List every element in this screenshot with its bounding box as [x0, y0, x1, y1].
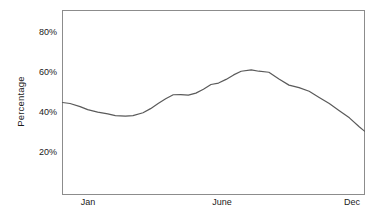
plot-frame [63, 11, 365, 195]
line-chart: 80% 60% 40% 20% Percentage Jan June Dec [0, 0, 385, 221]
plot-area [0, 0, 385, 221]
data-series-line [63, 70, 365, 131]
